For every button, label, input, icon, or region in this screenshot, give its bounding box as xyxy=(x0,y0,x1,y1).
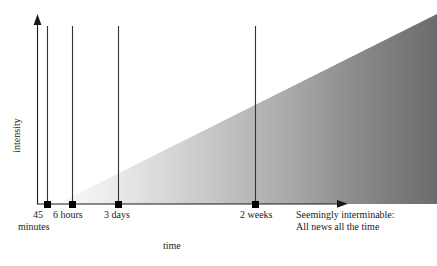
marker-square-2-weeks xyxy=(252,201,259,208)
annotation-line-2: All news all the time xyxy=(296,221,395,233)
x-axis-title: time xyxy=(163,240,181,251)
marker-square-45-minutes xyxy=(44,201,51,208)
annotation-line-1: Seemingly interminable: xyxy=(296,209,395,221)
tick-label-45: 45 xyxy=(33,209,43,220)
tick-label-6-hours: 6 hours xyxy=(53,209,83,220)
intensity-wedge xyxy=(57,14,437,204)
marker-square-3-days xyxy=(115,201,122,208)
marker-square-6-hours xyxy=(69,201,76,208)
tick-label-3-days: 3 days xyxy=(104,209,130,220)
y-axis-title: intensity xyxy=(11,106,22,166)
tick-label-minutes: minutes xyxy=(18,221,50,232)
annotation-block: Seemingly interminable: All news all the… xyxy=(296,209,395,233)
figure-container: intensity time 45 minutes 6 hours 3 days… xyxy=(0,0,437,266)
y-axis-arrow-icon xyxy=(34,14,42,25)
tick-label-2-weeks: 2 weeks xyxy=(240,209,273,220)
